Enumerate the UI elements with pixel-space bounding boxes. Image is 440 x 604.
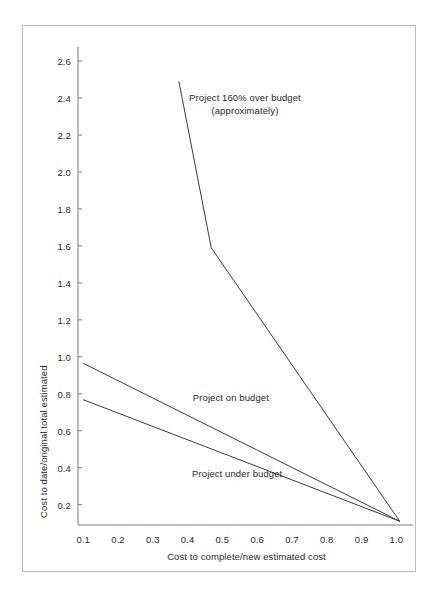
y-tick-label: 0.6 bbox=[40, 425, 71, 436]
y-tick-label: 2.2 bbox=[40, 130, 71, 141]
x-tick-label: 0.1 bbox=[76, 534, 90, 545]
y-tick-label: 0.8 bbox=[40, 388, 71, 399]
x-tick-label: 0.3 bbox=[146, 534, 160, 545]
axis-tick-marks bbox=[78, 61, 82, 505]
y-tick-label: 1.0 bbox=[40, 351, 71, 362]
x-tick-label: 0.5 bbox=[216, 534, 230, 545]
series-line bbox=[83, 363, 400, 521]
x-tick-label: 0.6 bbox=[250, 534, 264, 545]
series-line bbox=[83, 400, 400, 522]
series-line bbox=[179, 81, 400, 521]
x-axis-title: Cost to complete/new estimated cost bbox=[167, 551, 326, 562]
annotation-under-budget: Project under budget bbox=[192, 467, 282, 480]
x-tick-label: 0.9 bbox=[355, 534, 369, 545]
y-tick-label: 1.2 bbox=[40, 314, 71, 325]
y-tick-label: 2.0 bbox=[40, 166, 71, 177]
x-tick-label: 1.0 bbox=[390, 534, 404, 545]
y-tick-label: 1.6 bbox=[40, 240, 71, 251]
annotation-line-1: Project under budget bbox=[192, 467, 282, 480]
annotation-on-budget: Project on budget bbox=[193, 391, 269, 404]
x-tick-label: 0.7 bbox=[285, 534, 299, 545]
y-tick-label: 2.6 bbox=[40, 56, 71, 67]
data-series-lines bbox=[83, 81, 400, 521]
y-tick-label: 2.4 bbox=[40, 93, 71, 104]
annotation-line-2: (approximately) bbox=[189, 104, 301, 117]
x-tick-label: 0.2 bbox=[111, 534, 125, 545]
y-tick-label: 1.8 bbox=[40, 203, 71, 214]
x-tick-label: 0.4 bbox=[181, 534, 195, 545]
y-tick-label: 0.2 bbox=[40, 499, 71, 510]
y-tick-label: 0.4 bbox=[40, 462, 71, 473]
y-tick-label: 1.4 bbox=[40, 277, 71, 288]
annotation-over-budget: Project 160% over budget(approximately) bbox=[189, 91, 301, 117]
annotation-line-1: Project 160% over budget bbox=[189, 91, 301, 104]
x-tick-label: 0.8 bbox=[320, 534, 334, 545]
annotation-line-1: Project on budget bbox=[193, 391, 269, 404]
figure-canvas: Cost to date/original total estimated Co… bbox=[0, 0, 440, 604]
axes-spines bbox=[78, 47, 413, 525]
